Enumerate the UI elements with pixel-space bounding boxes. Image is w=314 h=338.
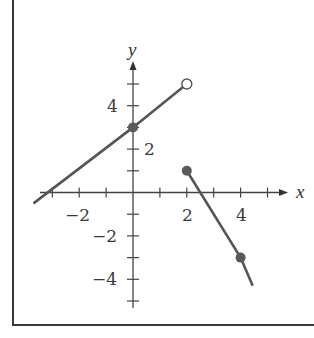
y-tick-label-neg4: −4 (92, 269, 117, 289)
y-axis-arrow-icon (130, 61, 137, 70)
segment-right-line (187, 171, 253, 286)
x-tick-label-neg2: −2 (65, 205, 90, 225)
filled-point (236, 253, 246, 263)
y-axis (127, 61, 139, 308)
x-axis-label: x (295, 181, 305, 202)
filled-point (128, 122, 138, 132)
y-tick-label-4: 4 (107, 96, 118, 116)
series-layer (33, 79, 252, 286)
open-point (182, 79, 192, 89)
y-tick-label-2: 2 (144, 139, 155, 159)
x-tick-label-2: 2 (182, 205, 193, 225)
filled-point (182, 166, 192, 176)
x-axis (40, 188, 288, 198)
y-tick-label-neg2: −2 (92, 226, 117, 246)
y-axis-label: y (126, 39, 137, 60)
piecewise-graph: x y −2 2 4 4 2 −2 −4 (0, 0, 314, 338)
x-tick-label-4: 4 (236, 205, 247, 225)
x-axis-arrow-icon (279, 189, 288, 196)
